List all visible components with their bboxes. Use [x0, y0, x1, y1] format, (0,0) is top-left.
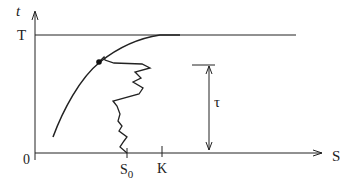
s0-label: S0 — [120, 162, 134, 180]
y-axis-label: t — [16, 3, 21, 19]
diagram-canvas: t S 0 T S0 K τ — [0, 0, 363, 186]
y-axis — [32, 11, 38, 160]
random-walk-path — [99, 57, 150, 153]
T-label: T — [17, 27, 26, 43]
x-axis-label: S — [332, 148, 340, 164]
k-label: K — [157, 161, 167, 176]
hitting-point — [96, 59, 102, 65]
origin-label: 0 — [23, 152, 30, 167]
tau-arrow — [192, 65, 215, 150]
exercise-boundary-curve — [53, 35, 180, 137]
x-axis — [35, 150, 322, 156]
tau-label: τ — [214, 94, 220, 110]
